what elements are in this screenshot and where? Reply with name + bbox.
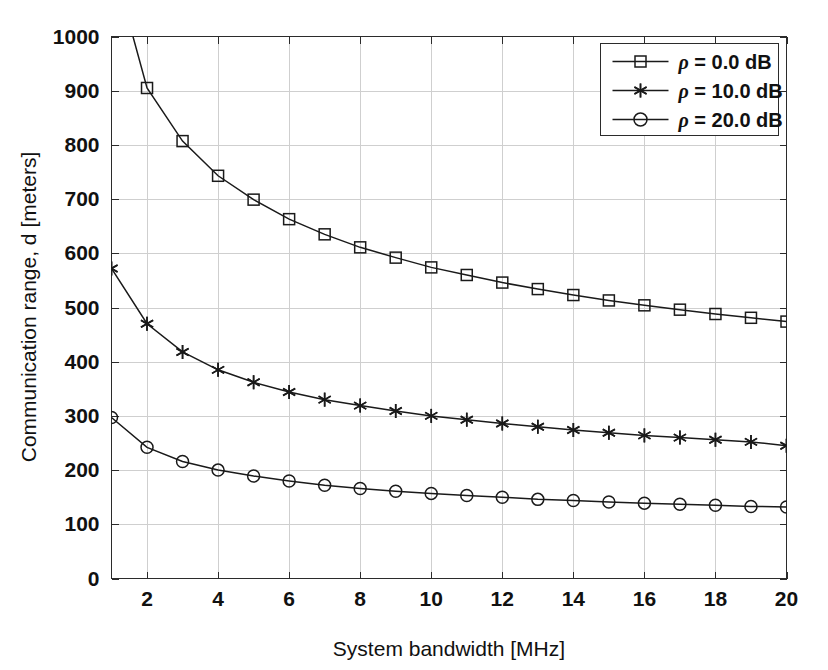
x-axis-tick-label: 4 xyxy=(212,587,224,610)
y-axis-tick-label: 400 xyxy=(64,350,99,373)
y-axis-tick-label: 700 xyxy=(64,187,99,210)
legend-value-text: = 20.0 dB xyxy=(689,109,783,131)
legend-item-label: ρ = 10.0 dB xyxy=(678,80,783,103)
rho-symbol: ρ xyxy=(678,109,689,132)
y-axis-tick-label: 200 xyxy=(64,458,99,481)
y-axis-tick-label: 0 xyxy=(88,567,100,590)
x-axis-tick-label: 8 xyxy=(354,587,366,610)
rho-symbol: ρ xyxy=(678,80,689,103)
y-axis-tick-label: 900 xyxy=(64,79,99,102)
x-axis-tick-label: 10 xyxy=(420,587,443,610)
y-axis-tick-label: 600 xyxy=(64,241,99,264)
x-axis-title: System bandwidth [MHz] xyxy=(333,637,565,660)
y-axis-tick-label: 1000 xyxy=(53,25,100,48)
chart-figure: 01002003004005006007008009001000 2468101… xyxy=(0,0,828,670)
legend-value-text: = 0.0 dB xyxy=(689,51,772,73)
x-axis-tick-label: 16 xyxy=(633,587,656,610)
legend[interactable]: ρ = 0.0 dBρ = 10.0 dBρ = 20.0 dB xyxy=(601,44,783,136)
x-axis-tick-label: 14 xyxy=(562,587,586,610)
rho-symbol: ρ xyxy=(678,51,689,74)
y-axis-tick-label: 500 xyxy=(64,296,99,319)
legend-item-label: ρ = 20.0 dB xyxy=(678,109,783,132)
x-axis-tick-label: 18 xyxy=(704,587,728,610)
y-axis-title: Communication range, d [meters] xyxy=(17,152,40,462)
legend-item-label: ρ = 0.0 dB xyxy=(678,51,772,74)
line-chart: 01002003004005006007008009001000 2468101… xyxy=(0,0,828,670)
x-axis-tick-label: 2 xyxy=(141,587,153,610)
legend-value-text: = 10.0 dB xyxy=(689,80,783,102)
x-axis-tick-label: 6 xyxy=(283,587,295,610)
x-axis-tick-label: 12 xyxy=(491,587,514,610)
x-axis-tick-label: 20 xyxy=(775,587,798,610)
y-axis-tick-label: 300 xyxy=(64,404,99,427)
y-axis-tick-label: 100 xyxy=(64,512,99,535)
y-axis-tick-label: 800 xyxy=(64,133,99,156)
